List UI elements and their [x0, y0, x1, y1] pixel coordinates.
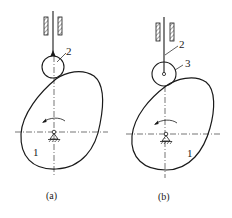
cam-profile-b — [132, 78, 214, 170]
panel-b: 2 3 1 (b) — [126, 17, 222, 203]
label-follower-a: 2 — [66, 45, 72, 57]
guide-left-b — [156, 23, 160, 41]
caption-b: (b) — [158, 191, 170, 203]
guide-left-a — [44, 17, 48, 35]
rotation-arrowhead-a — [42, 119, 47, 124]
pivot-support-b — [162, 136, 170, 142]
panel-a: 2 1 (a) — [15, 11, 108, 202]
label-follower-b: 2 — [179, 38, 185, 50]
guide-right-b — [170, 23, 174, 41]
label-roller-b: 3 — [185, 57, 191, 69]
label-cam-a: 1 — [33, 146, 39, 158]
leader-2-b — [165, 46, 178, 55]
cam-mechanisms-diagram: 2 1 (a) 2 3 1 (b — [0, 0, 232, 218]
roller-pin-b — [162, 72, 165, 75]
follower-circle-a — [42, 56, 64, 78]
leader-3-b — [175, 65, 183, 70]
follower-tip-a — [51, 50, 56, 56]
rotation-arrowhead-b — [154, 121, 159, 126]
guide-right-a — [58, 17, 62, 35]
label-cam-b: 1 — [187, 147, 193, 159]
caption-a: (a) — [46, 190, 57, 202]
